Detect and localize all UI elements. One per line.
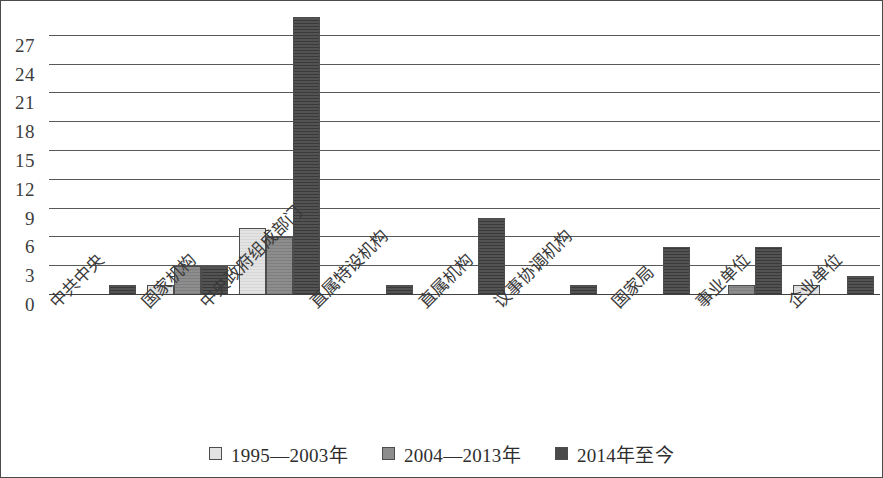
bar[interactable] (293, 17, 320, 295)
bar[interactable] (847, 276, 874, 295)
bar-group (603, 7, 695, 295)
y-axis-tick-labels: 0369121518212427 (1, 7, 43, 295)
dark-gray-square-icon (555, 447, 568, 460)
legend-label: 1995—2003年 (231, 440, 348, 467)
legend-item[interactable]: 2014年至今 (555, 440, 674, 467)
bar-chart: 0369121518212427 中共中央国家机构中央政府组成部门直属特设机构直… (0, 0, 883, 478)
legend-item[interactable]: 2004—2013年 (382, 440, 521, 467)
bar[interactable] (755, 247, 782, 295)
legend-item[interactable]: 1995—2003年 (209, 440, 348, 467)
light-gray-square-icon (209, 447, 222, 460)
bar[interactable] (663, 247, 690, 295)
chart-legend: 1995—2003年2004—2013年2014年至今 (1, 440, 882, 467)
x-axis-category-labels: 中共中央国家机构中央政府组成部门直属特设机构直属机构议事协调机构国家局事业单位企… (49, 299, 880, 419)
medium-gray-square-icon (382, 447, 395, 460)
legend-label: 2014年至今 (577, 440, 674, 467)
bar[interactable] (478, 218, 505, 295)
x-axis-line (49, 294, 880, 295)
legend-label: 2004—2013年 (404, 440, 521, 467)
